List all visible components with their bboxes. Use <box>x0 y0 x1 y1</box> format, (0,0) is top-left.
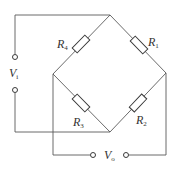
resistor-r1 <box>130 36 148 54</box>
input-terminal-top <box>13 55 18 60</box>
wire-output-right <box>129 73 166 155</box>
output-wires <box>53 73 166 155</box>
label-r4: R4 <box>56 37 68 52</box>
bridge-circuit-diagram: R4 R1 R3 R2 Vi Vo <box>0 0 173 171</box>
wire-input-bottom <box>15 93 110 132</box>
input-wires <box>15 15 110 132</box>
label-vi: Vi <box>9 66 18 81</box>
resistor-r3 <box>72 94 90 112</box>
wire-output-left <box>53 74 90 155</box>
resistor-r3-body <box>72 94 90 112</box>
label-vo: Vo <box>104 148 115 163</box>
resistor-r1-body <box>130 36 148 54</box>
label-r2: R2 <box>135 113 147 128</box>
output-terminal-right <box>124 153 129 158</box>
resistor-r4 <box>72 35 90 53</box>
input-terminal-bottom <box>13 88 18 93</box>
output-terminal-left <box>91 153 96 158</box>
label-r1: R1 <box>147 35 159 50</box>
resistor-r4-body <box>72 35 90 53</box>
resistor-r2 <box>129 94 146 112</box>
bridge-wires <box>53 15 166 132</box>
resistor-r2-body <box>129 94 146 112</box>
label-r3: R3 <box>72 115 84 130</box>
